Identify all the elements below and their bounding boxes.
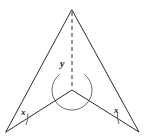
base-angle-label-x-right: x bbox=[114, 106, 119, 115]
reflex-angle-label-y: y bbox=[60, 59, 64, 69]
geometry-figure: y x x bbox=[0, 0, 145, 140]
geometry-diagram-svg bbox=[0, 0, 145, 140]
base-angle-label-x-left: x bbox=[21, 108, 26, 117]
